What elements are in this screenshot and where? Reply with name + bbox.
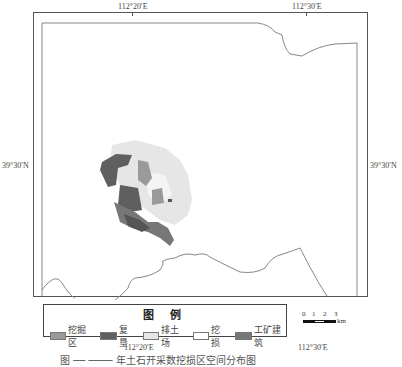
- scale-tick-1: 1: [312, 310, 316, 318]
- legend-label: 排土场: [161, 323, 185, 349]
- scale-segment-3: [325, 320, 336, 323]
- legend-label: 挖损: [211, 323, 227, 349]
- map-legend: 图 例 挖掘区 复垦 排土场 挖损 工矿建筑: [43, 304, 287, 337]
- study-area-boundary: [42, 23, 357, 296]
- small-building: [168, 199, 172, 202]
- legend-label: 复垦: [119, 323, 135, 349]
- figure-caption: 图 ── ──── 年土石开采数挖损区空间分布图: [60, 352, 256, 367]
- damage-swatch: [193, 332, 209, 340]
- scale-bar: 0 1 2 3 km: [302, 310, 362, 332]
- building-swatch: [235, 332, 251, 340]
- legend-item-building: 工矿建筑: [235, 323, 286, 349]
- dump-swatch: [143, 332, 159, 340]
- legend-item-excavation: 挖掘区: [50, 323, 92, 349]
- legend-label: 工矿建筑: [254, 323, 286, 349]
- legend-title: 图 例: [44, 306, 286, 322]
- scale-tick-0: 0: [302, 310, 306, 318]
- legend-item-damage: 挖损: [193, 323, 227, 349]
- legend-item-reclamation: 复垦: [100, 323, 134, 349]
- excavation-swatch: [50, 332, 66, 340]
- legend-label: 挖掘区: [68, 323, 92, 349]
- scale-segment-2: [314, 320, 325, 323]
- reclamation-swatch: [100, 332, 116, 340]
- excavation-area-2: [152, 188, 164, 205]
- scale-tick-2: 2: [323, 310, 327, 318]
- scale-unit: km: [337, 317, 346, 325]
- scale-segment-1: [303, 320, 314, 323]
- legend-item-dump: 排土场: [143, 323, 185, 349]
- southern-boundary: [42, 248, 327, 300]
